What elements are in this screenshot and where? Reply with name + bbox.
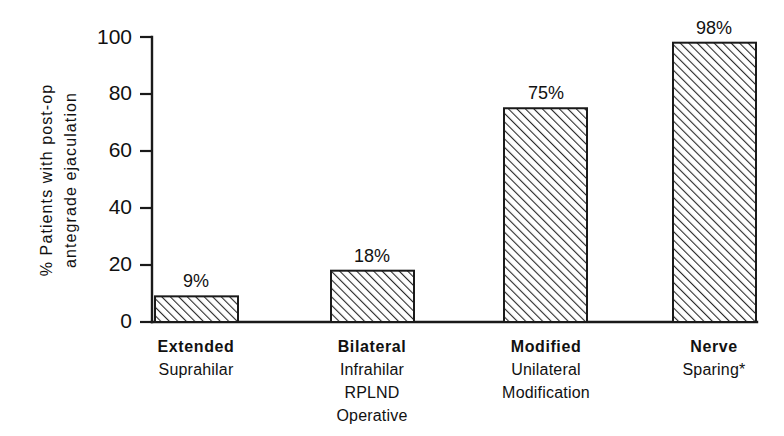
category-0-line-0: Extended: [158, 338, 235, 355]
y-axis: 0 20 40 60 80 100: [97, 25, 152, 332]
bar-extended-suprahilar: [155, 296, 238, 322]
category-2-line-0: Modified: [511, 338, 582, 355]
y-tick-label-60: 60: [109, 138, 132, 161]
y-axis-title-line2: antegrade ejaculation: [62, 92, 79, 268]
category-label-2: Modified Unilateral Modification: [502, 338, 590, 401]
y-axis-tick-labels: 0 20 40 60 80 100: [97, 25, 132, 332]
category-1-line-0: Bilateral: [338, 338, 407, 355]
category-1-line-3: Operative: [336, 407, 407, 424]
bar-nerve-sparing: [673, 43, 756, 322]
category-2-line-2: Modification: [502, 384, 590, 401]
y-axis-ticks: [140, 37, 152, 322]
chart-canvas: 0 20 40 60 80 100 % Patients with post-o…: [0, 0, 784, 436]
category-3-line-1: Sparing*: [683, 361, 746, 378]
bar-bilateral-infrahilar-rplnd: [331, 271, 414, 322]
value-label-bar-3: 98%: [696, 18, 732, 38]
category-3-line-0: Nerve: [690, 338, 737, 355]
value-label-bar-2: 75%: [528, 83, 564, 103]
category-1-line-2: RPLND: [344, 384, 399, 401]
category-label-3: Nerve Sparing*: [683, 338, 746, 378]
category-2-line-1: Unilateral: [511, 361, 581, 378]
y-tick-label-100: 100: [97, 25, 132, 48]
y-tick-label-0: 0: [120, 309, 132, 332]
bar-value-labels: 9% 18% 75% 98%: [183, 18, 732, 292]
category-1-line-1: Infrahilar: [340, 361, 405, 378]
bar-modified-unilateral-modification: [504, 108, 587, 322]
y-axis-title-line1: % Patients with post-op: [38, 84, 55, 277]
x-axis-category-labels: Extended Suprahilar Bilateral Infrahilar…: [158, 338, 746, 424]
category-0-line-1: Suprahilar: [159, 361, 234, 378]
category-label-1: Bilateral Infrahilar RPLND Operative: [336, 338, 407, 424]
y-tick-label-20: 20: [109, 252, 132, 275]
y-axis-title: % Patients with post-op antegrade ejacul…: [38, 84, 79, 277]
bars-group: [155, 43, 756, 322]
y-tick-label-40: 40: [109, 195, 132, 218]
bar-chart-figure: 0 20 40 60 80 100 % Patients with post-o…: [0, 0, 784, 436]
y-tick-label-80: 80: [109, 81, 132, 104]
category-label-0: Extended Suprahilar: [158, 338, 235, 378]
value-label-bar-1: 18%: [354, 246, 390, 266]
value-label-bar-0: 9%: [183, 271, 209, 291]
